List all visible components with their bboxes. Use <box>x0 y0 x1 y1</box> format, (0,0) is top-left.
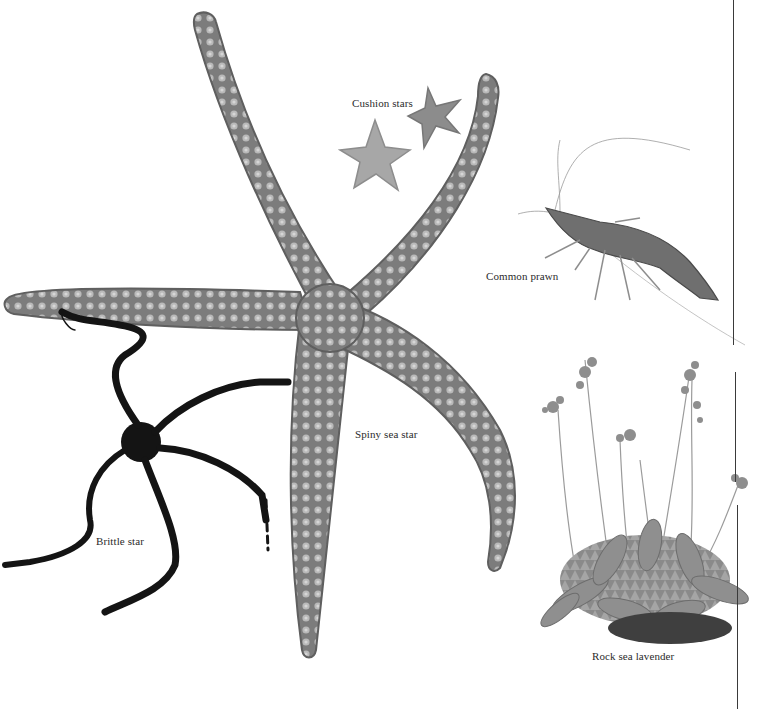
page-divider-line <box>735 372 736 482</box>
specimen-plate: Cushion stars Common prawn Spiny sea sta… <box>0 0 765 709</box>
rock-sea-lavender-image <box>536 357 751 644</box>
caption-rock-sea-lavender: Rock sea lavender <box>592 650 674 662</box>
page-divider-line <box>737 505 738 709</box>
page-divider-line <box>733 0 734 345</box>
caption-spiny-sea-star: Spiny sea star <box>355 428 418 440</box>
caption-cushion-stars: Cushion stars <box>352 97 413 109</box>
caption-common-prawn: Common prawn <box>486 270 558 282</box>
brittle-star-image <box>5 312 288 612</box>
common-prawn-image <box>518 138 745 345</box>
caption-brittle-star: Brittle star <box>96 535 144 547</box>
